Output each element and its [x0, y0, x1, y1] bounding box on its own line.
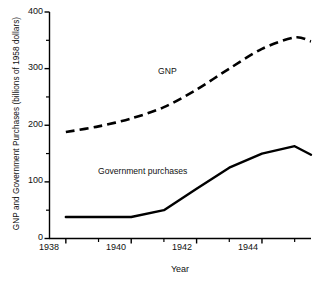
series-line-government-purchases — [66, 146, 311, 217]
chart-figure: GNP and Government Purchases (billions o… — [0, 0, 319, 287]
x-axis-tick-marks — [66, 239, 295, 244]
plot-area — [0, 0, 319, 287]
series-line-gnp — [66, 37, 311, 132]
y-axis-tick-marks — [45, 12, 50, 239]
